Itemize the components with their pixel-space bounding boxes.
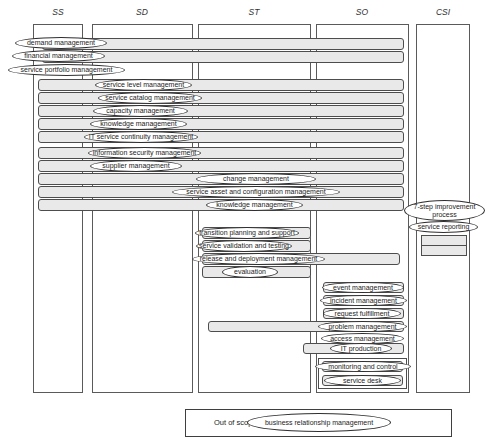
process-request-fulfillment: request fulfillment	[323, 308, 401, 319]
process-supplier-management: supplier management	[90, 160, 182, 172]
process-knowledge-management-sd: knowledge management	[90, 118, 187, 130]
process-evaluation: evaluation	[222, 266, 278, 278]
column-header-sd: SD	[120, 7, 164, 17]
process-business-relationship-management: business relationship management	[247, 413, 391, 432]
process-service-desk: service desk	[324, 375, 401, 386]
column-header-csi: CSI	[421, 7, 465, 17]
process-knowledge-management-st: knowledge management	[206, 199, 303, 211]
process-demand-management: demand management	[15, 37, 107, 49]
process-transition-planning-and-support: transition planning and support	[195, 227, 299, 239]
column-header-ss: SS	[36, 7, 80, 17]
process-service-portfolio-management: service portfolio management	[8, 64, 125, 76]
process-information-security-management: information security management	[88, 147, 201, 159]
csi-cell-bottom	[421, 245, 467, 256]
process-monitoring-and-control: monitoring and control	[315, 361, 411, 372]
column-header-st: ST	[232, 7, 276, 17]
bar-service-catalog-management	[38, 92, 404, 104]
process-problem-management: problem management	[318, 321, 407, 332]
process-it-production: IT production	[330, 343, 392, 354]
process-event-management: event management	[322, 282, 404, 293]
itil-lifecycle-diagram: SS SD ST SO CSI demand management financ…	[0, 0, 490, 443]
process-7-step-improvement: 7-step improvement process	[404, 200, 485, 221]
process-release-and-deployment-management: release and deployment management	[192, 253, 325, 265]
process-service-level-management: service level management	[95, 79, 192, 91]
process-incident-management: incident management	[320, 295, 407, 306]
bar-service-level-management	[38, 79, 404, 91]
process-service-catalog-management: service catalog management	[98, 92, 202, 104]
process-financial-management: financial management	[12, 50, 105, 62]
process-service-asset-and-configuration-management: service asset and configuration manageme…	[172, 186, 340, 198]
process-change-management: change management	[196, 173, 316, 185]
process-capacity-management: capacity management	[93, 105, 188, 117]
process-service-validation-and-testing: service validation and testing	[196, 240, 292, 252]
process-it-service-continuity-management: IT service continuity management	[84, 131, 198, 143]
column-header-so: SO	[340, 7, 384, 17]
process-service-reporting: service reporting	[409, 221, 478, 233]
